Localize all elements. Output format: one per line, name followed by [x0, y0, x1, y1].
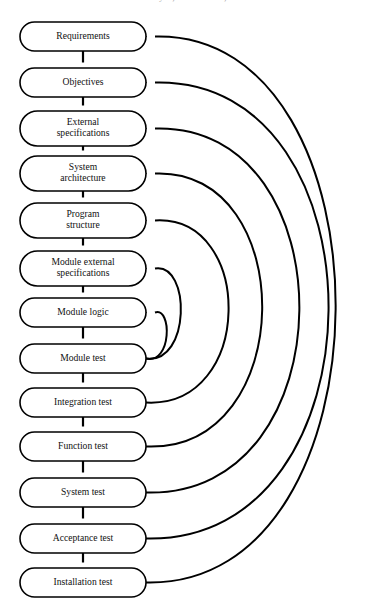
node-label-program-structure: structure [66, 219, 100, 230]
process-node-objectives: Objectives [20, 68, 146, 97]
feedback-arc-system-test-to-external-specifications [146, 128, 299, 492]
process-node-integration-test: Integration test [20, 388, 146, 417]
process-node-system-test: System test [20, 478, 146, 507]
node-label-system-architecture: architecture [60, 172, 105, 183]
process-node-function-test: Function test [20, 432, 146, 461]
feedback-arcs-layer [139, 32, 336, 583]
feedback-arc-installation-test-to-requirements [146, 36, 336, 582]
flowchart-canvas: RequirementsObjectivesExternalspecificat… [0, 0, 366, 613]
node-label-function-test: Function test [58, 440, 108, 451]
node-label-integration-test: Integration test [54, 396, 112, 407]
feedback-arc-function-test-to-system-architecture [146, 173, 262, 446]
process-node-system-architecture: Systemarchitecture [20, 156, 146, 191]
feedback-arc-module-test-to-module-logic [146, 312, 167, 359]
node-label-system-test: System test [61, 486, 105, 497]
node-label-external-specifications: specifications [57, 127, 110, 138]
process-node-module-logic: Module logic [20, 298, 146, 327]
node-label-program-structure: Program [66, 208, 100, 219]
node-label-system-architecture: System [69, 161, 98, 172]
node-label-module-external-specifications: Module external [51, 256, 114, 267]
process-node-module-external-specifications: Module externalspecifications [20, 251, 146, 286]
node-label-external-specifications: External [67, 116, 100, 127]
process-node-installation-test: Installation test [20, 568, 146, 597]
node-label-requirements: Requirements [56, 30, 110, 41]
process-node-module-test: Module test [20, 344, 146, 373]
lifecycle-diagram: 220 SOFTWARE ENGINEERING: Analysis, Cons… [0, 0, 366, 613]
node-label-module-external-specifications: specifications [57, 267, 110, 278]
feedback-arc-module-test-to-module-external-specifications [146, 268, 181, 359]
process-node-program-structure: Programstructure [20, 203, 146, 238]
feedback-arc-acceptance-test-to-objectives [146, 82, 329, 538]
process-node-external-specifications: Externalspecifications [20, 111, 146, 146]
node-label-module-test: Module test [60, 352, 106, 363]
node-label-module-logic: Module logic [57, 306, 108, 317]
process-node-acceptance-test: Acceptance test [20, 524, 146, 553]
node-label-objectives: Objectives [62, 76, 103, 87]
node-label-installation-test: Installation test [54, 576, 113, 587]
process-node-requirements: Requirements [20, 22, 146, 51]
node-label-acceptance-test: Acceptance test [53, 532, 114, 543]
